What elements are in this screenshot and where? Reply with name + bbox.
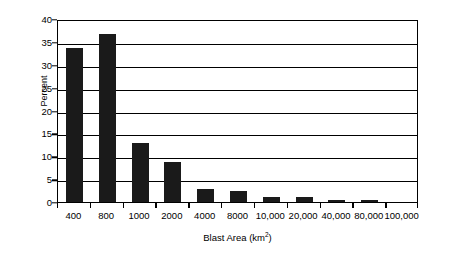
y-axis-tick-label: 25 <box>6 84 52 94</box>
x-axis-tick-mark <box>417 203 418 208</box>
x-axis-tick-label: 4000 <box>194 211 215 221</box>
x-axis-tick-label: 100,000 <box>384 211 418 221</box>
plot-area <box>57 20 418 203</box>
bar <box>99 34 116 202</box>
y-axis-tick-label: 20 <box>6 107 52 117</box>
x-axis-tick-mark <box>287 203 288 208</box>
x-axis-tick-mark <box>221 203 222 208</box>
x-axis-tick-label: 8000 <box>227 211 248 221</box>
y-axis-tick-label: 40 <box>6 15 52 25</box>
x-axis-tick-mark <box>254 203 255 208</box>
x-axis-tick-mark <box>188 203 189 208</box>
y-axis-tick-label: 10 <box>6 153 52 163</box>
bar <box>230 191 247 202</box>
x-axis-tick-label: 10,000 <box>256 211 285 221</box>
y-axis-tick-label: 30 <box>6 61 52 71</box>
x-axis-tick-mark <box>90 203 91 208</box>
y-axis-tick-label: 0 <box>6 198 52 208</box>
x-axis-tick-mark <box>57 203 58 208</box>
x-axis-tick-mark <box>155 203 156 208</box>
x-axis-title: Blast Area (km2) <box>57 232 418 243</box>
x-axis-tick-label: 2000 <box>161 211 182 221</box>
x-axis-tick-label: 80,000 <box>354 211 383 221</box>
bar-chart: Percent 0510152025303540 400800100020004… <box>0 0 460 258</box>
bar <box>296 197 313 202</box>
x-axis-tick-mark <box>320 203 321 208</box>
bar <box>164 162 181 202</box>
bar <box>197 189 214 202</box>
x-axis-title-close: ) <box>269 232 272 243</box>
y-axis-tick-label: 5 <box>6 175 52 185</box>
bar <box>263 197 280 202</box>
bar <box>361 200 378 202</box>
x-axis-tick-label: 800 <box>98 211 114 221</box>
bar <box>66 48 83 202</box>
x-axis-tick-mark <box>352 203 353 208</box>
y-axis-tick-label: 35 <box>6 38 52 48</box>
x-axis-tick-mark <box>385 203 386 208</box>
bars-layer <box>58 21 417 202</box>
y-axis-tick-labels: 0510152025303540 <box>0 20 52 203</box>
bar <box>328 200 345 202</box>
x-axis-title-text: Blast Area (km <box>203 232 265 243</box>
x-axis-tick-label: 1000 <box>128 211 149 221</box>
y-axis-tick-label: 15 <box>6 130 52 140</box>
x-axis-tick-label: 40,000 <box>321 211 350 221</box>
x-axis-tick-label: 20,000 <box>289 211 318 221</box>
x-axis-tick-mark <box>123 203 124 208</box>
x-axis-tick-label: 400 <box>65 211 81 221</box>
bar <box>132 143 149 202</box>
